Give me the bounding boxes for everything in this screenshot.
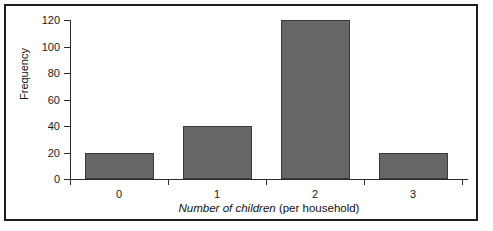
bar-chart: 020406080100120 0123 Frequency Number of… (6, 6, 476, 219)
x-tick-mark (168, 180, 169, 185)
bars-layer (70, 20, 462, 179)
figure-frame: 020406080100120 0123 Frequency Number of… (4, 4, 478, 221)
x-tick-label: 3 (393, 188, 433, 200)
x-axis-label: Number of children (per household) (70, 202, 468, 214)
y-tick-label: 20 (14, 148, 60, 159)
x-tick-mark (364, 180, 365, 185)
bar (183, 126, 252, 179)
x-tick-label: 0 (99, 188, 139, 200)
y-tick-label: 40 (14, 121, 60, 132)
x-tick-mark (462, 180, 463, 185)
x-axis-label-italic: Number of children (179, 202, 276, 214)
x-tick-mark (70, 180, 71, 185)
y-tick-label: 120 (14, 15, 60, 26)
x-tick-label: 2 (295, 188, 335, 200)
bar (379, 153, 448, 180)
x-tick-label: 1 (197, 188, 237, 200)
y-axis-label: Frequency (18, 26, 30, 122)
bar (281, 20, 350, 179)
x-tick-mark (266, 180, 267, 185)
x-axis-label-roman: (per household) (276, 202, 360, 214)
y-tick-label: 0 (14, 174, 60, 185)
bar (85, 153, 154, 180)
x-axis-line (70, 179, 468, 180)
